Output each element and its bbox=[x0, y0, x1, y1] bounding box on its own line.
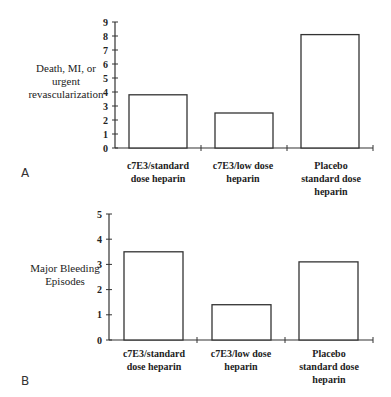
y-tick-label: 3 bbox=[103, 101, 108, 112]
y-tick-label: 7 bbox=[103, 45, 108, 56]
bar bbox=[301, 35, 359, 148]
y-tick-label: 2 bbox=[103, 115, 108, 126]
y-tick-label: 8 bbox=[103, 31, 108, 42]
bar bbox=[129, 95, 187, 148]
y-tick-label: 0 bbox=[103, 143, 108, 154]
chart-b-y-axis-label: Major Bleeding Episodes bbox=[24, 262, 106, 288]
bar bbox=[124, 252, 183, 340]
bar bbox=[299, 262, 358, 340]
chart-b-category-2: c7E3/low dose heparin bbox=[201, 347, 281, 373]
y-tick-label: 1 bbox=[103, 129, 108, 140]
chart-b-category-1: c7E3/standard dose heparin bbox=[114, 347, 194, 373]
y-tick-label: 1 bbox=[97, 309, 102, 320]
chart-a-category-2: c7E3/low dose heparin bbox=[203, 159, 283, 185]
chart-a: 0123456789 Death, MI, or urgent revascul… bbox=[0, 0, 391, 190]
chart-a-y-axis-label: Death, MI, or urgent revascularization bbox=[20, 62, 112, 101]
y-tick-label: 9 bbox=[103, 17, 108, 28]
bar bbox=[212, 305, 271, 340]
chart-b-category-3: Placebo standard dose heparin bbox=[288, 347, 370, 386]
chart-b: 012345 Major Bleeding Episodes c7E3/stan… bbox=[0, 190, 391, 397]
bar bbox=[215, 113, 273, 148]
panel-label-b: B bbox=[21, 374, 29, 388]
y-tick-label: 4 bbox=[97, 234, 102, 245]
y-tick-label: 5 bbox=[97, 209, 102, 220]
y-tick-label: 0 bbox=[97, 335, 102, 346]
chart-a-category-1: c7E3/standard dose heparin bbox=[118, 159, 198, 185]
panel-label-a: A bbox=[21, 166, 29, 180]
